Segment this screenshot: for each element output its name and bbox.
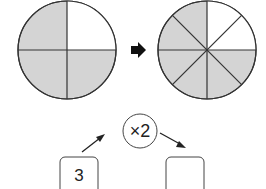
arrow-to-operator-icon [82,134,105,152]
operator-label: ×2 [123,120,157,142]
left-box-value: 3 [60,166,98,186]
right-circle-eighths [158,1,256,99]
right-value-box[interactable] [166,157,204,189]
right-arrow-icon [131,42,146,58]
left-circle-quarters [18,1,116,99]
fraction-diagram [0,0,266,189]
arrow-from-operator-icon [160,133,186,148]
